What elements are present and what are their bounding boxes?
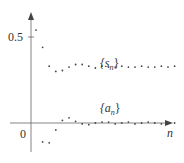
data-point xyxy=(62,70,64,72)
data-point xyxy=(42,141,44,143)
data-point xyxy=(127,121,129,123)
data-point xyxy=(141,122,143,124)
data-point xyxy=(174,122,176,124)
y-axis xyxy=(28,12,34,152)
series-a-label: {an} xyxy=(100,102,121,119)
y-tick-label: 0.5 xyxy=(8,31,23,43)
data-point xyxy=(81,64,83,66)
data-point xyxy=(147,121,149,123)
data-point xyxy=(88,124,90,126)
data-point xyxy=(81,123,83,125)
data-point xyxy=(161,123,163,125)
data-point xyxy=(68,66,70,68)
origin-label: 0 xyxy=(20,128,26,140)
data-point xyxy=(134,66,136,68)
data-point xyxy=(134,123,136,125)
series-a-label-close: } xyxy=(115,101,121,115)
data-point xyxy=(75,120,77,122)
data-point xyxy=(75,64,77,66)
data-point xyxy=(35,29,37,31)
data-point xyxy=(121,122,123,124)
x-axis xyxy=(10,120,173,126)
data-point xyxy=(108,121,110,123)
series-s-label: {sn} xyxy=(100,57,119,74)
data-point xyxy=(95,67,97,69)
y-axis-arrow-icon xyxy=(28,12,34,20)
x-axis-label: n xyxy=(167,127,173,139)
data-point xyxy=(154,122,156,124)
data-point xyxy=(161,65,163,67)
data-point xyxy=(114,123,116,125)
series-s-label-close: } xyxy=(113,56,119,70)
data-point xyxy=(68,117,70,119)
data-point xyxy=(62,120,64,122)
data-point xyxy=(48,142,50,144)
data-point xyxy=(95,122,97,124)
data-point xyxy=(147,66,149,68)
data-point xyxy=(121,65,123,67)
data-point xyxy=(42,46,44,48)
data-point xyxy=(141,65,143,67)
data-point xyxy=(88,65,90,67)
data-point xyxy=(154,66,156,68)
sequence-chart xyxy=(0,0,184,163)
data-point xyxy=(167,122,169,124)
series-a-points xyxy=(42,117,176,144)
data-point xyxy=(55,71,57,73)
data-point xyxy=(55,129,57,131)
data-point xyxy=(101,121,103,123)
data-point xyxy=(174,65,176,67)
data-point xyxy=(167,66,169,68)
series-a-label-main: {a xyxy=(100,101,111,115)
data-point xyxy=(127,66,129,68)
data-point xyxy=(48,65,50,67)
